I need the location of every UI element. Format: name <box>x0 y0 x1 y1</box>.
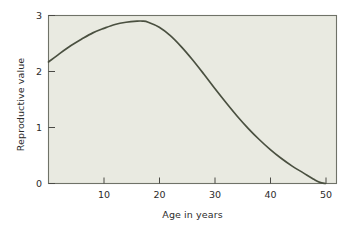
x-tick-label-30: 30 <box>203 189 227 200</box>
y-tick-label-3: 3 <box>26 10 42 21</box>
x-tick-label-20: 20 <box>148 189 172 200</box>
x-axis-label: Age in years <box>48 209 337 220</box>
chart-canvas <box>0 0 353 230</box>
x-tick-label-50: 50 <box>314 189 338 200</box>
y-tick-label-2: 2 <box>26 66 42 77</box>
reproductive-value-chart: Reproductive value Age in years 3 2 1 0 … <box>0 0 353 230</box>
y-tick-label-0: 0 <box>26 178 42 189</box>
y-axis-label: Reproductive value <box>15 45 26 165</box>
x-tick-label-10: 10 <box>92 189 116 200</box>
y-tick-label-1: 1 <box>26 122 42 133</box>
x-tick-label-40: 40 <box>259 189 283 200</box>
plot-area-background <box>49 16 337 184</box>
